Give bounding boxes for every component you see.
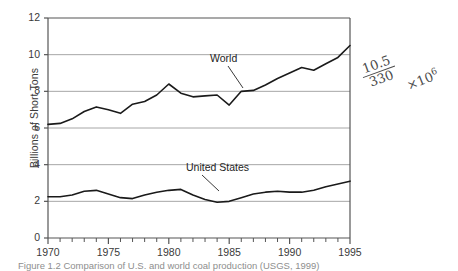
series-line-united-states <box>48 181 350 202</box>
handwritten-multiplier: ×106 <box>404 66 441 94</box>
series-label-united-states: United States <box>186 161 249 173</box>
leader-line-united-states <box>202 175 219 191</box>
figure-caption: Figure 1.2 Comparison of U.S. and world … <box>18 260 448 271</box>
series-label-world: World <box>210 52 237 64</box>
series-line-world <box>48 46 350 125</box>
handwritten-annotation: 10.5 330 ×106 <box>356 62 456 114</box>
leader-line-world <box>228 66 243 88</box>
